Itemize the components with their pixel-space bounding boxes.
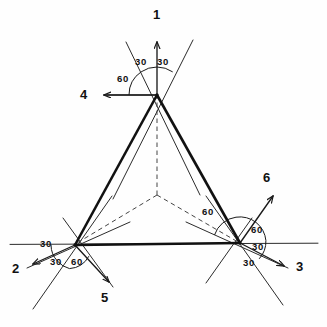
angle-label-apex-left-30: 30	[135, 56, 147, 67]
construction-lines	[10, 40, 318, 309]
angle-label-left-60: 60	[71, 256, 83, 267]
vector-6-arrow	[240, 196, 273, 243]
angle-label-left-lower-30: 30	[50, 256, 62, 267]
centroid-medians	[77, 97, 238, 243]
right-thin-line-b	[206, 196, 283, 305]
triangle-side-right	[157, 95, 240, 243]
force-triangle-svg	[0, 0, 327, 327]
left-thin-line-c	[63, 218, 113, 287]
vertex-right-dot	[238, 241, 241, 244]
vertex-left-dot	[73, 243, 76, 246]
angle-label-right-upper-60: 60	[202, 206, 214, 217]
arc-apex	[129, 72, 141, 95]
vertex-apex-dot	[155, 93, 158, 96]
ray-label-5: 5	[101, 290, 109, 305]
ray-label-4: 4	[80, 87, 88, 102]
arc-apex-inner	[141, 67, 157, 72]
apex-thin-line-right	[113, 40, 193, 199]
angle-label-right-upper-30: 30	[252, 241, 264, 252]
triangle-side-left	[75, 95, 157, 245]
arc-apex-inner2	[157, 67, 173, 72]
angle-label-apex-right-30: 30	[157, 56, 169, 67]
angle-label-right-mid-60: 60	[251, 224, 263, 235]
ray-label-6: 6	[263, 170, 271, 185]
ray-label-2: 2	[12, 261, 20, 276]
ray-label-1: 1	[153, 7, 161, 22]
angle-label-left-upper-30: 30	[40, 238, 52, 249]
right-thin-line-a	[186, 222, 288, 268]
ray-label-3: 3	[296, 259, 304, 274]
angle-label-apex-60: 60	[117, 73, 129, 84]
diagram-canvas: 1 2 3 4 5 6 30 30 60 30 30 60 60 60 30 3…	[0, 0, 327, 327]
vector-arrows	[33, 42, 284, 282]
angle-label-right-lower-30: 30	[243, 257, 255, 268]
triangle-side-base	[75, 243, 240, 245]
